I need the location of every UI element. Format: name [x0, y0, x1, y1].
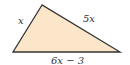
left-side-label: x [18, 16, 24, 26]
bottom-side-label: 6x − 3 [51, 56, 84, 65]
right-side-label: 5x [83, 14, 95, 24]
